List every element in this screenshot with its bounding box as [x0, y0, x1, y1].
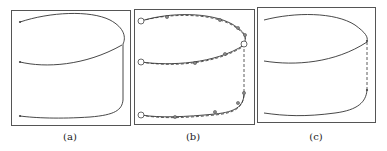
panel-border — [258, 8, 376, 123]
control-point — [236, 101, 239, 104]
panel-c — [258, 8, 376, 123]
endpoint-marker — [138, 59, 144, 65]
control-point — [173, 115, 176, 118]
control-point — [243, 33, 246, 36]
solid-curve — [264, 15, 367, 41]
control-point — [165, 15, 168, 18]
control-point — [19, 61, 21, 63]
control-point — [19, 21, 21, 23]
solid-curve — [20, 100, 123, 118]
solid-curve — [20, 13, 124, 44]
solid-curve — [264, 90, 367, 116]
control-point — [242, 91, 245, 94]
endpoint-marker — [241, 41, 247, 47]
control-point — [366, 89, 368, 91]
panel-label-b: (b) — [186, 131, 200, 142]
control-point — [223, 52, 226, 55]
solid-curve — [20, 45, 122, 65]
figure-canvas — [0, 0, 387, 151]
panel-label-a: (a) — [63, 131, 77, 142]
panel-border — [12, 11, 131, 126]
panel-label-c: (c) — [309, 131, 322, 142]
panel-a — [12, 11, 131, 126]
control-point — [213, 110, 216, 113]
endpoint-marker — [138, 112, 144, 118]
panel-b — [135, 10, 255, 125]
control-point — [218, 18, 221, 21]
control-point — [236, 26, 239, 29]
control-point — [193, 61, 196, 64]
control-point — [19, 115, 21, 117]
solid-curve — [141, 95, 244, 117]
control-point — [366, 40, 368, 42]
solid-curve — [141, 15, 245, 41]
solid-curve — [141, 45, 244, 64]
dashed-curve — [141, 95, 244, 118]
dashed-curve — [141, 46, 244, 64]
dashed-curve — [141, 15, 245, 42]
solid-curve — [264, 42, 367, 63]
endpoint-marker — [138, 18, 144, 24]
